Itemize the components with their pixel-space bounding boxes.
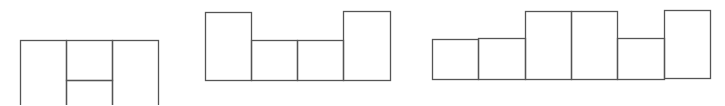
square-face (298, 41, 344, 81)
square-face (113, 41, 159, 106)
square-face (572, 12, 618, 80)
figure-net-c (433, 11, 711, 80)
square-face (206, 13, 252, 81)
square-face (665, 11, 711, 79)
square-face (252, 41, 298, 81)
square-face (344, 12, 391, 81)
square-face (526, 12, 572, 80)
figure-net-b (206, 12, 391, 81)
square-face (479, 39, 526, 80)
square-face (618, 39, 665, 80)
figure-net-a (21, 41, 159, 106)
square-face (67, 41, 113, 81)
diagram-canvas (0, 0, 725, 105)
square-face (67, 81, 113, 106)
square-face (433, 40, 479, 80)
square-face (21, 41, 67, 106)
